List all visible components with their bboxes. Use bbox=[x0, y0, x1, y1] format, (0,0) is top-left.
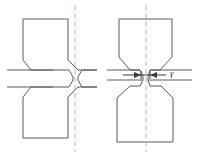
left-neck-right-edge bbox=[78, 70, 82, 87]
left-upper-outline bbox=[23, 19, 97, 70]
arrow-left-icon bbox=[150, 72, 157, 78]
left-neck-left-edge bbox=[69, 70, 73, 87]
right-lower-outline bbox=[117, 86, 173, 142]
left-lower-outline-mirror bbox=[23, 87, 53, 138]
left-upper-outline-mirror bbox=[23, 19, 53, 70]
right-panel: γ bbox=[107, 5, 192, 152]
left-panel bbox=[7, 5, 97, 152]
gamma-label: γ bbox=[170, 68, 174, 78]
technical-diagram: γ bbox=[0, 0, 199, 157]
right-upper-outline-mirror bbox=[119, 19, 140, 70]
left-lower-outline bbox=[23, 87, 97, 138]
arrow-right-icon bbox=[134, 72, 141, 78]
diagram-canvas: γ bbox=[0, 0, 199, 157]
right-lower-outline-mirror bbox=[117, 86, 140, 142]
